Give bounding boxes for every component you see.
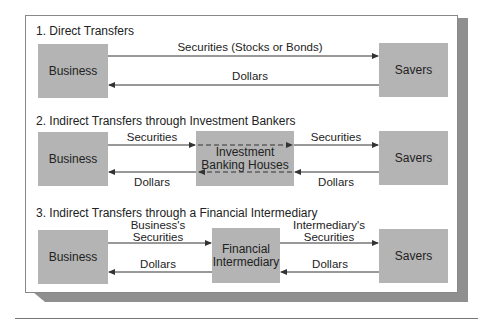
flow-arrows <box>0 0 490 322</box>
